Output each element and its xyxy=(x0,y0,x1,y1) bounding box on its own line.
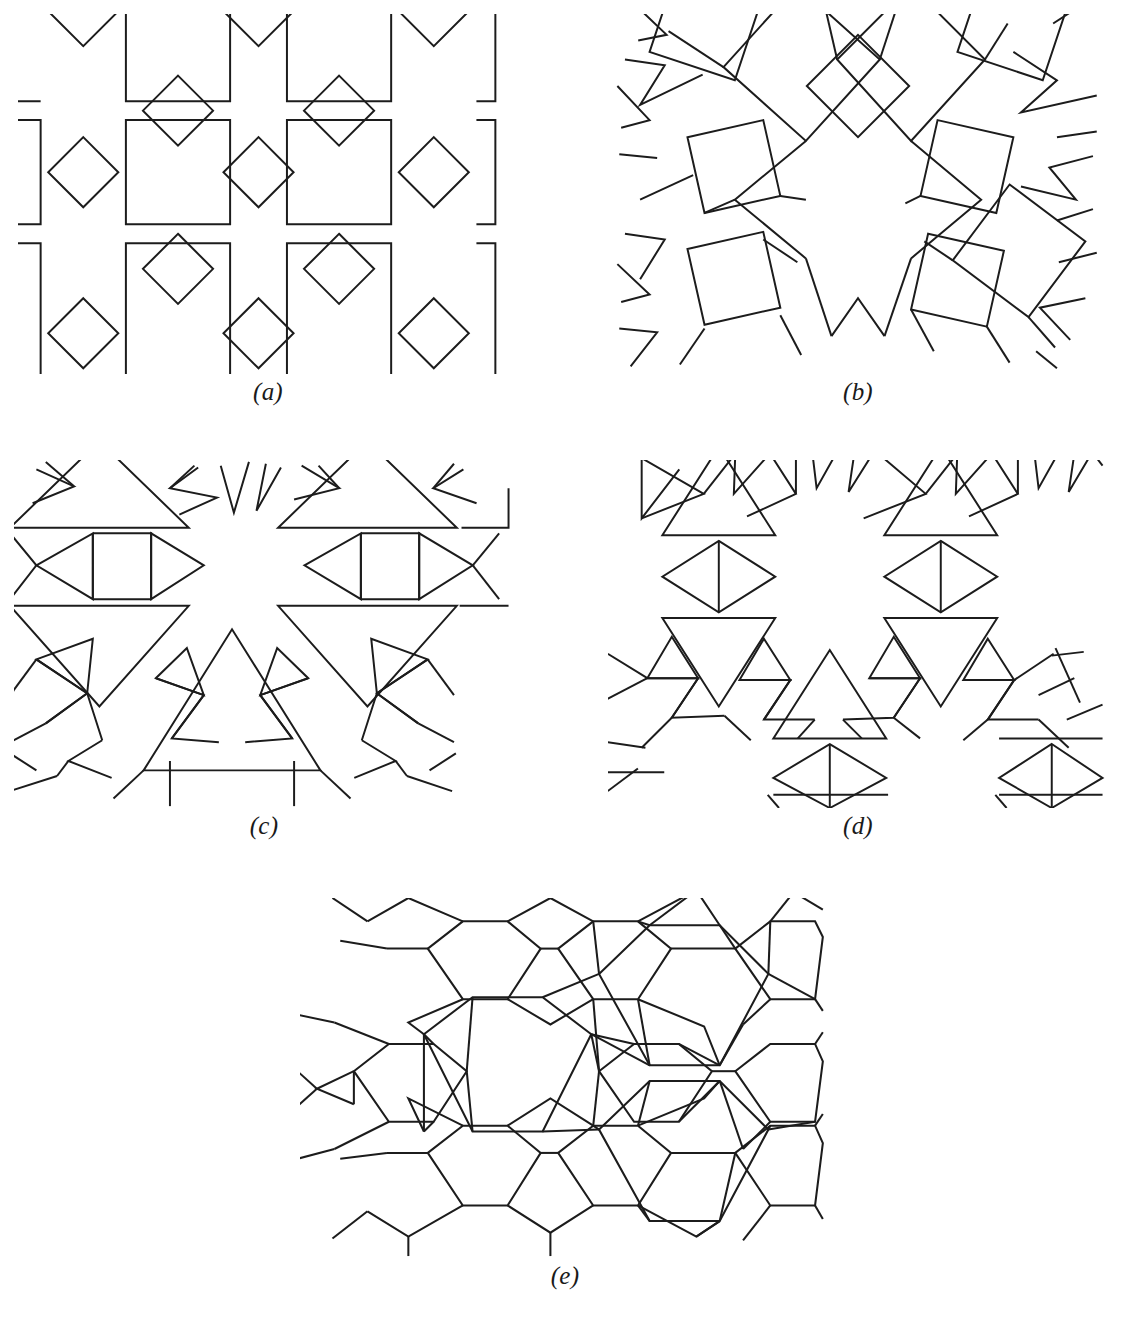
panel-d-tiling xyxy=(608,460,1108,808)
panel-b-label: (b) xyxy=(608,378,1108,406)
panel-d-label: (d) xyxy=(608,812,1108,840)
hexagon-tiling xyxy=(300,898,823,1256)
panel-d: (d) xyxy=(608,460,1108,808)
triangle-tiling xyxy=(14,460,509,806)
figure-sheet: (a) xyxy=(0,0,1127,1317)
panel-c: (c) xyxy=(14,460,514,808)
triangle-rhombus-tiling xyxy=(608,460,1103,808)
panel-c-label: (c) xyxy=(14,812,514,840)
square-diamond-tiling xyxy=(18,14,495,374)
panel-a-label: (a) xyxy=(18,378,518,406)
panel-e-tiling xyxy=(300,898,830,1258)
panel-b: (b) xyxy=(608,14,1108,374)
panel-b-tiling xyxy=(608,14,1108,374)
panel-a: (a) xyxy=(18,14,518,374)
panel-c-tiling xyxy=(14,460,514,808)
panel-e: (e) xyxy=(300,898,830,1258)
panel-a-tiling xyxy=(18,14,518,374)
rotated-square-rosette-tiling xyxy=(617,14,1096,368)
panel-e-label: (e) xyxy=(300,1262,830,1290)
